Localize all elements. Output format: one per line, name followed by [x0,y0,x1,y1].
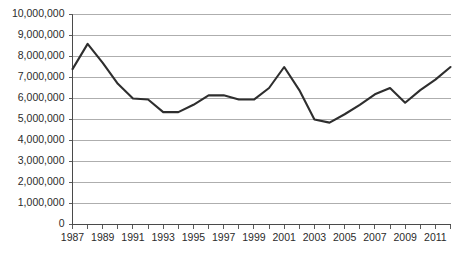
y-axis-tick-label: 7,000,000 [18,70,65,82]
x-axis-tick-label: 1987 [61,231,85,243]
x-axis-tick-label: 2009 [393,231,417,243]
x-axis-tick-label: 1997 [212,231,236,243]
y-axis-tick-label: 2,000,000 [18,175,65,187]
y-axis-tick-label: 10,000,000 [12,7,65,19]
y-axis-tick-label: 4,000,000 [18,133,65,145]
x-axis-tick-label: 1999 [242,231,266,243]
y-axis-tick-label: 6,000,000 [18,91,65,103]
x-axis-tick-label: 1993 [152,231,176,243]
x-axis-tick-label: 2011 [424,231,447,243]
x-axis-tick-marks [73,225,451,229]
x-axis-tick-label: 2005 [333,231,357,243]
x-axis-tick-label: 1995 [182,231,206,243]
y-axis-tick-marks [69,15,73,225]
y-axis-tick-label: 1,000,000 [18,196,65,208]
gridlines [73,15,451,204]
x-axis-tick-label: 1989 [91,231,115,243]
y-axis-tick-label: 3,000,000 [18,154,65,166]
x-axis-tick-label: 2003 [303,231,327,243]
y-axis-tick-label: 8,000,000 [18,49,65,61]
x-axis-tick-label: 2007 [363,231,387,243]
y-axis-tick-label: 0 [59,217,65,229]
x-axis-tick-label: 2001 [273,231,297,243]
chart-canvas: 10,000,0009,000,0008,000,0007,000,0006,0… [0,0,463,264]
x-axis-labels: 1987198919911993199519971999200120032005… [61,231,447,243]
x-axis-tick-label: 1991 [121,231,145,243]
y-axis-tick-label: 5,000,000 [18,112,65,124]
y-axis-labels: 10,000,0009,000,0008,000,0007,000,0006,0… [12,7,65,229]
line-chart: 10,000,0009,000,0008,000,0007,000,0006,0… [0,0,463,264]
data-series-line [73,44,451,123]
y-axis-tick-label: 9,000,000 [18,28,65,40]
